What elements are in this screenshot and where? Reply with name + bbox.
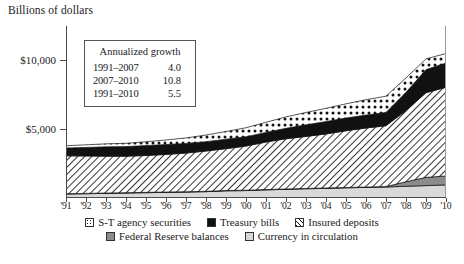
y-tick-label: $5,000 [26, 123, 56, 135]
x-tick-label: '97 [180, 200, 191, 211]
x-tick-label: '92 [80, 200, 91, 211]
hatch-icon [295, 218, 304, 227]
x-tick-label: '04 [320, 200, 331, 211]
x-tick-label: '96 [160, 200, 171, 211]
chart-legend: S-T agency securities Treasury bills Ins… [0, 216, 464, 242]
x-tick-label: '10 [440, 200, 451, 211]
growth-period: 1991–2010 [93, 87, 138, 100]
x-tick-label: '01 [260, 200, 271, 211]
dark-gray-square-icon [106, 232, 115, 241]
x-tick-label: '91 [60, 200, 71, 211]
growth-row: 2007–2010 10.8 [93, 74, 187, 87]
y-axis-title: Billions of dollars [8, 4, 93, 16]
x-tick-label: '06 [360, 200, 371, 211]
x-axis-line [66, 197, 446, 198]
legend-item-federal-reserve-balances: Federal Reserve balances [106, 230, 229, 242]
annualized-growth-box: Annualized growth 1991–2007 4.0 2007–201… [84, 40, 196, 107]
black-square-icon [207, 218, 216, 227]
legend-row-1: S-T agency securities Treasury bills Ins… [85, 216, 379, 228]
dotted-icon [85, 218, 94, 227]
x-tick-label: '08 [400, 200, 411, 211]
legend-row-2: Federal Reserve balances Currency in cir… [106, 230, 358, 242]
growth-value: 10.8 [163, 74, 187, 87]
x-tick-label: '02 [280, 200, 291, 211]
legend-item-insured-deposits: Insured deposits [295, 216, 378, 228]
x-tick-label: '98 [200, 200, 211, 211]
legend-label: Federal Reserve balances [119, 230, 229, 242]
chart-root: Billions of dollars $5,000$10,000 '91'92… [0, 0, 464, 264]
x-tick-label: '94 [120, 200, 131, 211]
x-tick-label: '03 [300, 200, 311, 211]
growth-value: 4.0 [168, 61, 187, 74]
x-tick-label: '99 [220, 200, 231, 211]
x-tick-label: '93 [100, 200, 111, 211]
plot-right-border [445, 26, 446, 198]
x-tick-label: '00 [240, 200, 251, 211]
legend-item-st-agency-securities: S-T agency securities [85, 216, 191, 228]
legend-label: S-T agency securities [98, 216, 191, 228]
y-tick [60, 60, 66, 61]
x-tick-label: '07 [380, 200, 391, 211]
legend-label: Currency in circulation [258, 230, 358, 242]
x-tick-label: '09 [420, 200, 431, 211]
growth-period: 2007–2010 [93, 74, 138, 87]
growth-period: 1991–2007 [93, 61, 138, 74]
growth-row: 1991–2007 4.0 [93, 61, 187, 74]
light-gray-square-icon [245, 232, 254, 241]
y-tick [60, 129, 66, 130]
y-axis-line [66, 26, 67, 198]
growth-value: 5.5 [168, 87, 187, 100]
x-tick-label: '95 [140, 200, 151, 211]
legend-label: Treasury bills [220, 216, 279, 228]
legend-label: Insured deposits [308, 216, 378, 228]
x-tick-label: '05 [340, 200, 351, 211]
legend-item-currency-in-circulation: Currency in circulation [245, 230, 358, 242]
growth-box-title: Annualized growth [93, 46, 187, 57]
growth-row: 1991–2010 5.5 [93, 87, 187, 100]
y-tick-label: $10,000 [20, 54, 56, 66]
legend-item-treasury-bills: Treasury bills [207, 216, 279, 228]
